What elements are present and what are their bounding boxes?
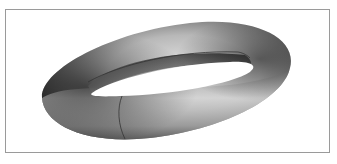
torus-render <box>0 0 337 164</box>
